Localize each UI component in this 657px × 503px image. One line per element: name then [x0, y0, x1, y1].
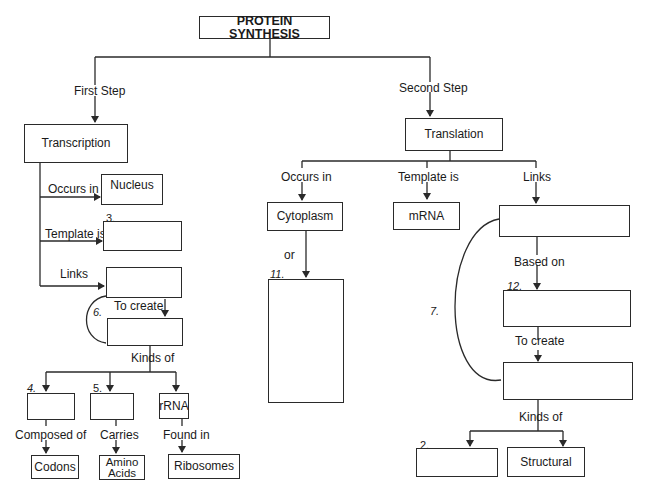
nucleus-box: Nucleus — [101, 174, 163, 205]
amino-acids-box: Amino Acids — [99, 455, 145, 480]
right-kinds-of-label: Kinds of — [519, 410, 562, 424]
kind-2-blank-box[interactable] — [416, 448, 498, 477]
blank-number-7: 7. — [430, 305, 439, 317]
template-blank-box[interactable] — [103, 221, 182, 251]
or-label: or — [284, 248, 295, 262]
codons-box: Codons — [31, 455, 79, 479]
right-links-label: Links — [523, 170, 551, 184]
kind-4-blank-box[interactable] — [27, 393, 75, 420]
ribosomes-box: Ribosomes — [168, 454, 240, 479]
occurs-in-label: Occurs in — [48, 182, 99, 196]
translation-box: Translation — [405, 118, 503, 151]
first-step-label: First Step — [74, 84, 125, 98]
blank-number-6: 6. — [93, 306, 102, 318]
or-blank-box[interactable] — [268, 279, 344, 403]
mrna-box: mRNA — [393, 202, 460, 230]
right-links-blank-box[interactable] — [499, 205, 630, 237]
right-template-is-label: Template is — [398, 170, 459, 184]
right-to-create-label: To create — [515, 334, 564, 348]
right-occurs-in-label: Occurs in — [281, 170, 332, 184]
rrna-box: rRNA — [159, 393, 189, 419]
second-step-label: Second Step — [399, 81, 468, 95]
to-create-blank-box[interactable] — [107, 318, 183, 346]
to-create-label: To create — [114, 299, 163, 313]
structural-box: Structural — [507, 447, 585, 477]
right-to-create-blank-box[interactable] — [503, 362, 633, 400]
based-on-label: Based on — [514, 255, 565, 269]
links-label: Links — [60, 267, 88, 281]
composed-of-label: Composed of — [15, 428, 86, 442]
based-on-blank-box[interactable] — [503, 290, 631, 327]
transcription-box: Transcription — [24, 124, 128, 163]
kind-5-blank-box[interactable] — [90, 393, 134, 420]
kinds-of-label: Kinds of — [131, 351, 174, 365]
template-is-label: Template is — [45, 227, 106, 241]
title-box: PROTEIN SYNTHESIS — [199, 16, 330, 39]
connector-lines — [0, 0, 657, 503]
found-in-label: Found in — [163, 428, 210, 442]
links-blank-box[interactable] — [106, 267, 182, 298]
cytoplasm-box: Cytoplasm — [267, 202, 343, 231]
carries-label: Carries — [100, 428, 139, 442]
